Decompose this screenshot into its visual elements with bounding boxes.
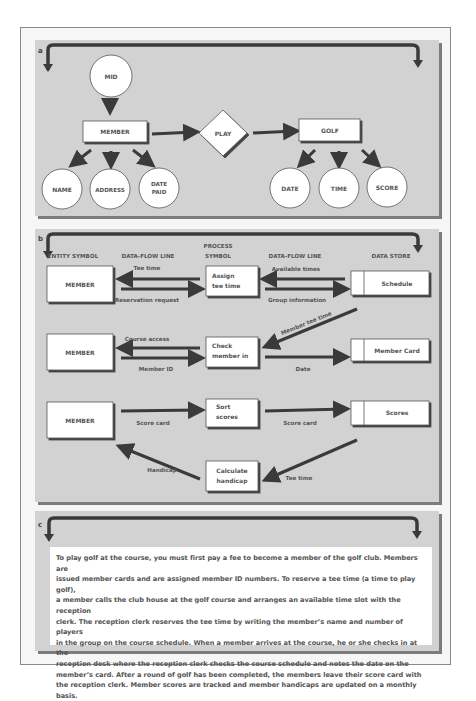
arrow-icon: [73, 150, 91, 164]
header-data-flow-line-2: DATA-FLOW LINE: [269, 253, 322, 259]
bracket-arrow-icon: [48, 234, 418, 257]
header-entity-symbol: ENTITY SYMBOL: [48, 253, 99, 259]
arrow-icon: [301, 150, 315, 164]
svg-text:NAME: NAME: [52, 186, 72, 193]
attribute-score: SCORE: [367, 167, 407, 207]
description-line: member’s card. After a round of golf has…: [56, 670, 426, 681]
panel-a-er-diagram: a MID MEMBER: [35, 40, 439, 216]
header-data-flow-line: DATA-FLOW LINE: [122, 253, 175, 259]
arrow-icon: [253, 131, 295, 133]
description-line: reception desk where the reception clerk…: [56, 659, 426, 670]
svg-text:Member Card: Member Card: [374, 347, 419, 354]
description-line: the reception clerk. Member scores are t…: [56, 680, 426, 701]
svg-text:DATE: DATE: [151, 181, 167, 187]
description-line: To play golf at the course, you must fir…: [56, 553, 426, 574]
svg-text:Score card: Score card: [136, 420, 170, 426]
svg-text:PAID: PAID: [152, 189, 167, 195]
attribute-time: TIME: [319, 168, 359, 208]
svg-text:MEMBER: MEMBER: [65, 417, 95, 424]
entity-golf-label: GOLF: [321, 127, 339, 134]
svg-text:Available times: Available times: [272, 266, 321, 272]
header-symbol: SYMBOL: [205, 253, 232, 259]
svg-text:Calculate: Calculate: [216, 467, 247, 474]
attribute-address: ADDRESS: [90, 169, 130, 209]
attribute-date: DATE: [270, 168, 310, 208]
arrow-icon: [265, 409, 345, 411]
svg-text:DATE: DATE: [281, 185, 298, 192]
arrow-icon: [362, 150, 377, 164]
arrow-icon: [133, 150, 151, 164]
svg-text:Reservation request: Reservation request: [115, 297, 179, 304]
arrow-icon: [267, 309, 357, 346]
svg-text:Sort: Sort: [216, 403, 230, 410]
description-text: To play golf at the course, you must fir…: [50, 547, 432, 645]
svg-text:TIME: TIME: [331, 185, 347, 192]
svg-text:handicap: handicap: [217, 477, 249, 485]
arrow-icon: [152, 132, 195, 134]
relationship-play-label: PLAY: [215, 130, 232, 137]
svg-text:Scores: Scores: [386, 409, 409, 416]
panel-c-svg: [35, 511, 439, 551]
attribute-name: NAME: [42, 169, 82, 209]
svg-text:Handicap: Handicap: [147, 467, 176, 474]
process-assign-tee-time: [206, 266, 258, 296]
svg-text:Group information: Group information: [268, 297, 326, 304]
arrow-icon: [267, 440, 357, 479]
entity-member-label: MEMBER: [100, 128, 130, 135]
panel-b-svg: ENTITY SYMBOL DATA-FLOW LINE PROCESS SYM…: [35, 229, 439, 502]
svg-text:SCORE: SCORE: [376, 184, 399, 191]
svg-text:Schedule: Schedule: [382, 280, 413, 287]
svg-text:ADDRESS: ADDRESS: [95, 187, 125, 193]
svg-text:Member ID: Member ID: [139, 366, 174, 372]
svg-text:scores: scores: [216, 413, 238, 420]
header-process: PROCESS: [204, 243, 233, 249]
description-line: a member calls the club house at the gol…: [56, 595, 426, 616]
svg-text:MEMBER: MEMBER: [65, 349, 95, 356]
svg-text:Score card: Score card: [283, 420, 317, 426]
header-data-store: DATA STORE: [372, 253, 411, 259]
svg-text:MEMBER: MEMBER: [65, 281, 95, 288]
svg-text:MID: MID: [104, 73, 117, 80]
bracket-arrow-icon: [49, 518, 417, 537]
arrow-icon: [121, 410, 200, 411]
svg-text:Assign: Assign: [212, 272, 234, 280]
svg-text:Check: Check: [212, 342, 233, 349]
svg-text:Tee time: Tee time: [134, 265, 161, 271]
panel-c-narrative: c To play golf at the course, you must f…: [35, 511, 439, 651]
svg-text:Tee time: Tee time: [286, 475, 313, 481]
description-line: in the group on the course schedule. Whe…: [56, 638, 426, 659]
svg-text:Date: Date: [296, 366, 311, 372]
attribute-mid: MID: [90, 55, 132, 97]
svg-text:member in: member in: [212, 352, 248, 359]
description-line: clerk. The reception clerk reserves the …: [56, 617, 426, 638]
panel-b-data-flow-diagram: b ENTITY SYMBOL DATA-FLOW LINE PROCESS S…: [35, 229, 439, 502]
svg-text:Course access: Course access: [125, 336, 170, 342]
arrow-icon: [121, 447, 200, 479]
panel-a-svg: MID MEMBER PLAY GOLF NAME: [35, 40, 439, 216]
attribute-date-paid: DATE PAID: [139, 168, 179, 208]
process-calculate-handicap: [206, 461, 258, 491]
description-line: issued member cards and are assigned mem…: [56, 574, 426, 595]
svg-text:tee time: tee time: [212, 282, 240, 289]
